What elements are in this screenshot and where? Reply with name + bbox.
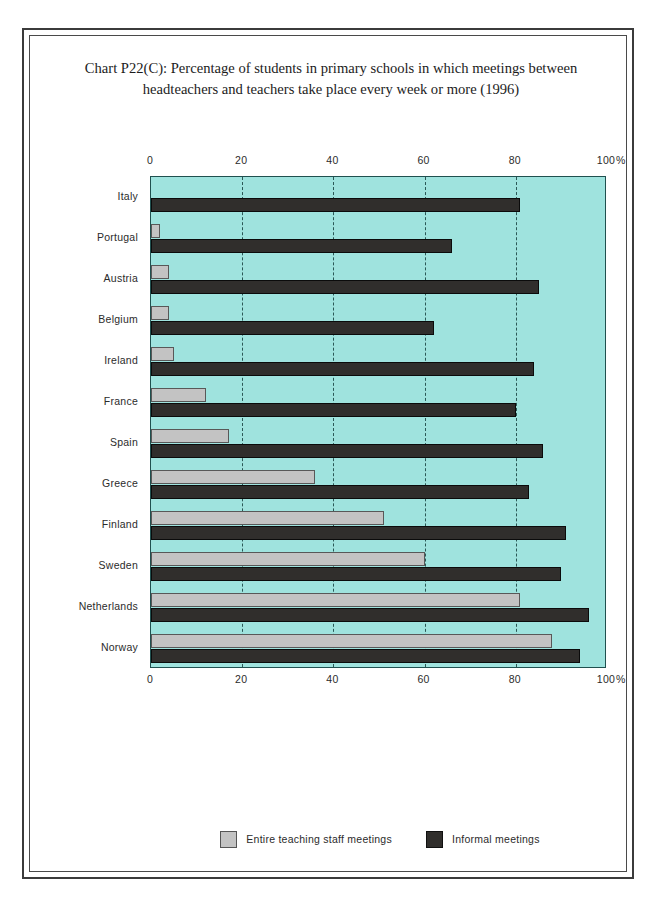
bar-group-netherlands [151, 587, 605, 628]
bar-group-ireland [151, 341, 605, 382]
chart-legend: Entire teaching staff meetings Informal … [180, 826, 580, 852]
bar-informal-belgium [151, 321, 434, 335]
bar-entire-norway [151, 634, 552, 648]
bar-entire-finland [151, 511, 384, 525]
y-label-belgium: Belgium [30, 313, 138, 325]
bar-group-portugal [151, 218, 605, 259]
bar-entire-austria [151, 265, 169, 279]
bar-informal-austria [151, 280, 539, 294]
y-label-norway: Norway [30, 641, 138, 653]
bar-entire-spain [151, 429, 229, 443]
bar-informal-spain [151, 444, 543, 458]
bar-informal-ireland [151, 362, 534, 376]
bar-group-belgium [151, 300, 605, 341]
bar-group-norway [151, 628, 605, 668]
x-tick-label-60-bottom: 60 [417, 673, 429, 685]
bar-group-finland [151, 505, 605, 546]
bar-group-austria [151, 259, 605, 300]
x-tick-label-80-top: 80 [509, 154, 521, 166]
bar-entire-sweden [151, 552, 425, 566]
legend-label-entire: Entire teaching staff meetings [246, 833, 392, 845]
y-label-ireland: Ireland [30, 354, 138, 366]
bar-group-france [151, 382, 605, 423]
legend-item-informal-meetings: Informal meetings [426, 831, 540, 848]
bar-informal-portugal [151, 239, 452, 253]
x-axis-unit-top: % [616, 154, 626, 166]
bar-informal-france [151, 403, 516, 417]
chart-frame-outer: Chart P22(C): Percentage of students in … [22, 28, 634, 879]
plot-area [150, 176, 606, 668]
y-label-portugal: Portugal [30, 231, 138, 243]
bar-entire-greece [151, 470, 315, 484]
y-label-italy: Italy [30, 190, 138, 202]
legend-swatch-icon-entire [220, 831, 237, 848]
y-label-netherlands: Netherlands [30, 600, 138, 612]
legend-label-informal: Informal meetings [452, 833, 540, 845]
x-axis-bottom: 020406080100% [30, 673, 630, 689]
bar-group-spain [151, 423, 605, 464]
x-tick-label-0-bottom: 0 [147, 673, 153, 685]
chart-title-line-2: headteachers and teachers take place eve… [48, 79, 614, 100]
bar-informal-sweden [151, 567, 561, 581]
x-tick-label-100-bottom: 100 [597, 673, 615, 685]
legend-item-entire-teaching-staff-meetings: Entire teaching staff meetings [220, 831, 392, 848]
y-label-sweden: Sweden [30, 559, 138, 571]
chart-area: 020406080100% ItalyPortugalAustriaBelgiu… [30, 154, 630, 794]
y-label-finland: Finland [30, 518, 138, 530]
bar-entire-portugal [151, 224, 160, 238]
bar-entire-netherlands [151, 593, 520, 607]
y-label-greece: Greece [30, 477, 138, 489]
x-tick-label-40-top: 40 [326, 154, 338, 166]
chart-title-line-1: Chart P22(C): Percentage of students in … [85, 60, 577, 76]
bar-informal-netherlands [151, 608, 589, 622]
x-tick-label-100-top: 100 [597, 154, 615, 166]
y-label-spain: Spain [30, 436, 138, 448]
bar-informal-greece [151, 485, 529, 499]
bar-group-italy [151, 177, 605, 218]
bar-group-greece [151, 464, 605, 505]
bar-group-sweden [151, 546, 605, 587]
chart-frame-inner: Chart P22(C): Percentage of students in … [29, 35, 627, 872]
bar-entire-belgium [151, 306, 169, 320]
chart-title: Chart P22(C): Percentage of students in … [48, 58, 614, 100]
x-tick-label-20-top: 20 [235, 154, 247, 166]
x-tick-label-60-top: 60 [417, 154, 429, 166]
y-axis-category-labels: ItalyPortugalAustriaBelgiumIrelandFrance… [30, 176, 144, 668]
x-tick-label-40-bottom: 40 [326, 673, 338, 685]
bar-informal-italy [151, 198, 520, 212]
bar-informal-norway [151, 649, 580, 663]
bar-informal-finland [151, 526, 566, 540]
x-axis-top: 020406080100% [30, 154, 630, 170]
y-label-france: France [30, 395, 138, 407]
x-tick-label-80-bottom: 80 [509, 673, 521, 685]
y-label-austria: Austria [30, 272, 138, 284]
bar-entire-ireland [151, 347, 174, 361]
legend-swatch-icon-informal [426, 831, 443, 848]
page-root: Chart P22(C): Percentage of students in … [0, 0, 662, 917]
x-tick-label-0-top: 0 [147, 154, 153, 166]
x-axis-unit-bottom: % [616, 673, 626, 685]
x-tick-label-20-bottom: 20 [235, 673, 247, 685]
bar-entire-france [151, 388, 206, 402]
